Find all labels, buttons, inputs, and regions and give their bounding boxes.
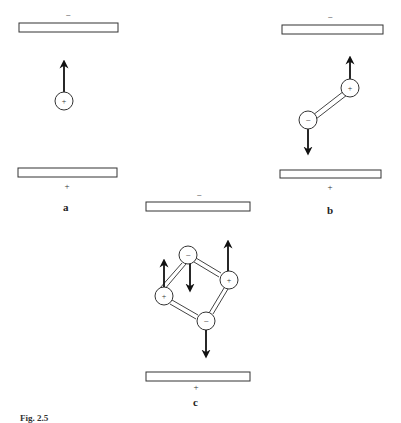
panel-label-a: a — [63, 201, 69, 213]
svg-text:−: − — [203, 316, 208, 326]
caption-prefix: Fig. 2.5 — [20, 413, 48, 423]
top-plate-sign-a: − — [65, 10, 70, 20]
top-plate-sign-b: − — [327, 12, 332, 22]
bottom-plate-sign-c: + — [193, 382, 198, 392]
figure-caption: Fig. 2.5 — [20, 413, 48, 423]
panel-label-b: b — [327, 204, 333, 216]
bottom-plate-a — [18, 168, 117, 177]
bottom-plate-sign-a: + — [64, 181, 69, 191]
svg-text:−: − — [305, 115, 310, 125]
bottom-plate-sign-b: + — [327, 182, 332, 192]
bottom-plate-c — [146, 372, 250, 381]
panel-c: − − + + − + — [146, 190, 250, 392]
bottom-plate-b — [280, 170, 381, 178]
svg-text:+: + — [162, 292, 167, 301]
svg-text:+: + — [348, 84, 353, 93]
top-plate-b — [282, 25, 383, 34]
top-plate-a — [19, 23, 118, 32]
top-plate-sign-c: − — [196, 190, 201, 200]
panel-label-c: c — [193, 396, 198, 408]
svg-text:−: − — [185, 250, 190, 260]
panel-a: − + + — [18, 10, 118, 191]
svg-text:+: + — [62, 97, 67, 106]
svg-text:+: + — [227, 276, 232, 285]
panel-b: − + − + — [280, 12, 383, 192]
top-plate-c — [146, 202, 250, 211]
